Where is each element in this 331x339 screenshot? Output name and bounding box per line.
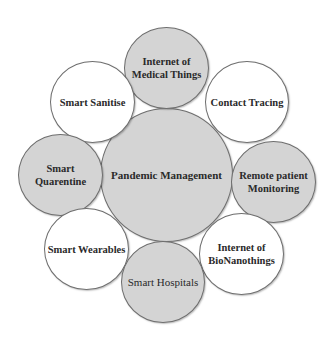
node-smart-quarentine: Smart Quarentine — [18, 134, 103, 216]
node-label: Smart Wearables — [46, 243, 128, 256]
node-label: Remote patient Monitoring — [237, 169, 310, 195]
center-node-label: Pandemic Management — [109, 169, 224, 182]
node-internet-of-medical-things: Internet of Medical Things — [124, 27, 209, 109]
node-label: Smart Sanitise — [58, 96, 128, 109]
node-contact-tracing: Contact Tracing — [205, 61, 289, 143]
node-smart-hospitals: Smart Hospitals — [121, 241, 205, 323]
node-smart-sanitise: Smart Sanitise — [50, 61, 135, 143]
node-smart-wearables: Smart Wearables — [44, 208, 129, 290]
node-label: Internet of Medical Things — [130, 55, 204, 81]
node-remote-patient-monitoring: Remote patient Monitoring — [231, 141, 316, 223]
node-label: Smart Hospitals — [126, 276, 201, 289]
pandemic-management-diagram: Pandemic Management Internet of Medical … — [0, 0, 331, 339]
node-label: Smart Quarentine — [33, 162, 88, 188]
node-label: Contact Tracing — [209, 96, 286, 109]
node-internet-of-bionanothings: Internet of BioNanothings — [199, 213, 284, 295]
node-label: Internet of BioNanothings — [206, 241, 277, 267]
